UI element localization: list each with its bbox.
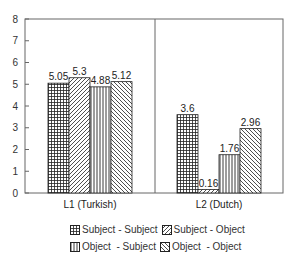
legend-label: Object - Subject [82, 241, 156, 252]
bar-value-label: 5.05 [49, 71, 69, 82]
bar [90, 87, 111, 193]
y-tick-label: 0 [12, 188, 18, 199]
x-axis-categories: L1 (Turkish)L2 (Dutch) [64, 199, 243, 210]
bar-value-label: 5.12 [112, 70, 132, 81]
legend-label: Subject - Subject [82, 224, 158, 235]
bar-value-label: 3.6 [181, 103, 195, 114]
grid-pattern-icon [70, 225, 80, 235]
legend-item-object-subject: Object - Subject [70, 241, 156, 252]
bar [111, 82, 132, 193]
legend-label: Subject - Object [174, 224, 245, 235]
bar [240, 129, 261, 193]
bar-chart: 012345678 5.055.34.885.123.60.161.762.96… [0, 0, 299, 221]
y-tick-label: 8 [12, 14, 18, 25]
bar [69, 78, 90, 193]
bar [177, 115, 198, 193]
bar [198, 190, 219, 193]
category-label: L2 (Dutch) [196, 199, 243, 210]
bar-value-label: 5.3 [73, 66, 87, 77]
diagonal-down-pattern-icon [160, 242, 170, 252]
y-tick-label: 4 [12, 101, 18, 112]
bar-value-label: 2.96 [241, 117, 261, 128]
diagonal-up-pattern-icon [162, 225, 172, 235]
legend-label: Object - Object [172, 241, 241, 252]
y-tick-label: 5 [12, 79, 18, 90]
legend-item-object-object: Object - Object [160, 241, 241, 252]
legend-item-subject-subject: Subject - Subject [70, 224, 158, 235]
y-tick-label: 6 [12, 57, 18, 68]
y-axis: 012345678 [12, 14, 29, 199]
legend: Subject - Subject Subject - Object Objec… [70, 221, 249, 255]
y-tick-label: 2 [12, 144, 18, 155]
category-label: L1 (Turkish) [64, 199, 117, 210]
y-tick-label: 7 [12, 35, 18, 46]
bar-value-label: 1.76 [220, 143, 240, 154]
bar-value-label: 4.88 [91, 75, 111, 86]
vertical-pattern-icon [70, 242, 80, 252]
bar [48, 83, 69, 193]
y-tick-label: 3 [12, 122, 18, 133]
bar [219, 155, 240, 193]
legend-item-subject-object: Subject - Object [162, 224, 245, 235]
bar-value-label: 0.16 [199, 178, 219, 189]
y-tick-label: 1 [12, 166, 18, 177]
